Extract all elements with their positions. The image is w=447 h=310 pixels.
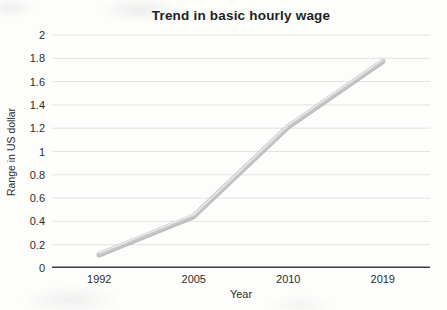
y-tick-label: 1.4 [0, 99, 45, 111]
y-axis-ticks: 00.20.40.60.811.21.41.61.82 [0, 35, 45, 268]
x-tick-label: 2019 [371, 273, 395, 285]
plot-svg [52, 35, 430, 268]
y-tick-label: 1.8 [0, 52, 45, 64]
y-tick-label: 2 [0, 29, 45, 41]
y-tick-label: 0.6 [0, 192, 45, 204]
y-tick-label: 0.4 [0, 215, 45, 227]
y-tick-label: 1 [0, 146, 45, 158]
plot-area [52, 35, 430, 268]
x-tick-label: 2010 [276, 273, 300, 285]
y-tick-label: 1.6 [0, 76, 45, 88]
y-tick-label: 1.2 [0, 122, 45, 134]
x-tick-label: 2005 [182, 273, 206, 285]
y-tick-label: 0 [0, 262, 45, 274]
x-axis-label: Year [52, 288, 430, 300]
chart-title: Trend in basic hourly wage [52, 8, 430, 23]
series-line-highlight [99, 60, 383, 253]
y-tick-label: 0.2 [0, 239, 45, 251]
wage-trend-chart: Trend in basic hourly wage Range in US d… [0, 0, 447, 310]
y-tick-label: 0.8 [0, 169, 45, 181]
x-axis-ticks: 1992200520102019 [52, 273, 430, 287]
x-tick-label: 1992 [87, 273, 111, 285]
